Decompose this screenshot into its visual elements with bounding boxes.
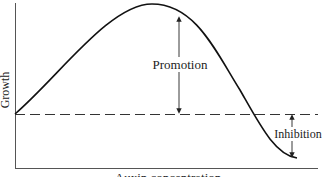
growth-auxin-diagram: Promotion Inhibition Growth Auxin concen…	[0, 0, 323, 177]
promotion-label: Promotion	[153, 57, 208, 72]
inhibition-label: Inhibition	[274, 127, 321, 141]
growth-curve	[15, 4, 297, 158]
x-axis-label: Auxin concentration	[115, 170, 222, 177]
y-axis-label: Growth	[0, 72, 12, 109]
